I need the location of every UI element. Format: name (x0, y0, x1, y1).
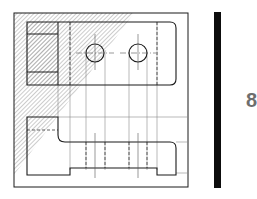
hatched-region (14, 13, 134, 175)
vertical-divider-bar (214, 12, 221, 188)
page-number: 8 (246, 90, 257, 110)
